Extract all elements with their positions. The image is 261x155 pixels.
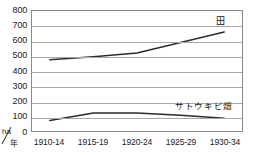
x-axis-tick-label: 1915-19	[78, 137, 109, 147]
gridline	[32, 118, 242, 119]
y-axis-unit-label: ha 年	[1, 128, 31, 154]
series-path-sugarcane-field	[50, 113, 224, 121]
gridline	[32, 26, 242, 27]
gridline	[32, 87, 242, 88]
series-path-rice-paddy	[50, 32, 224, 60]
y-axis-unit-denominator: 年	[10, 140, 18, 148]
x-axis-tick-label: 1930-34	[210, 137, 241, 147]
line-chart: 8007006005004003002001000 ha 年 1910-1419…	[0, 0, 261, 155]
x-axis-tick-label: 1925-29	[166, 137, 197, 147]
series-label-sugarcane-field: サトウキビ畑	[175, 101, 233, 111]
gridline	[32, 57, 242, 58]
series-lines	[32, 11, 242, 131]
y-axis-tick-label: 500	[13, 51, 27, 60]
y-axis-tick-label: 200	[13, 97, 27, 106]
gridline	[32, 42, 242, 43]
gridline	[32, 72, 242, 73]
y-axis-tick-label: 300	[13, 82, 27, 91]
series-label-rice-paddy: 田	[216, 16, 226, 26]
x-axis-tick-label: 1910-14	[34, 137, 65, 147]
y-axis-tick-label: 800	[13, 6, 27, 15]
x-axis: 1910-141915-191920-241925-291930-34	[31, 137, 243, 151]
x-axis-tick-label: 1920-24	[122, 137, 153, 147]
y-axis-tick-label: 600	[13, 36, 27, 45]
y-axis-tick-label: 700	[13, 21, 27, 30]
y-axis-tick-label: 400	[13, 67, 27, 76]
y-axis-tick-label: 100	[13, 112, 27, 121]
plot-area	[31, 10, 243, 132]
